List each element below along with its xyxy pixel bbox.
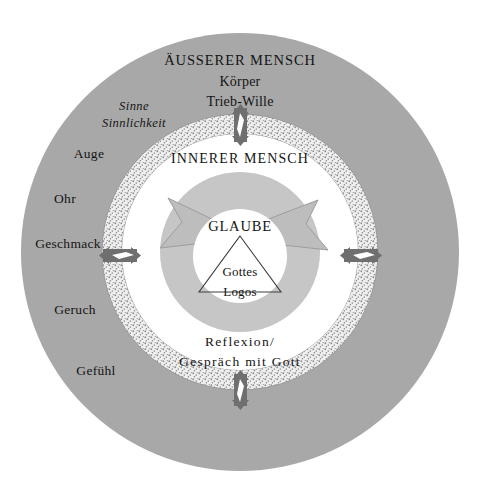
sense-label-auge: Auge <box>74 146 104 161</box>
concentric-circles-diagram: ÄUSSERER MENSCH Körper Trieb-Wille Sinne… <box>0 0 481 503</box>
sense-label-geschmack: Geschmack <box>35 236 101 251</box>
outer-zone-italic-line1: Sinne <box>119 99 149 113</box>
marker-right-bidirectional-arrow <box>340 247 382 264</box>
inner-zone-heading: INNERER MENSCH <box>171 151 309 166</box>
outer-zone-heading: ÄUSSERER MENSCH <box>164 52 316 68</box>
core-triangle-line1: Gottes <box>222 264 257 279</box>
marker-bottom-bidirectional-arrow <box>232 370 249 410</box>
sense-label-gefuehl: Gefühl <box>76 363 115 378</box>
reflexion-line1: Reflexion/ <box>205 334 275 349</box>
marker-left-bidirectional-arrow <box>99 247 141 264</box>
sense-label-ohr: Ohr <box>54 191 76 206</box>
outer-zone-line3: Trieb-Wille <box>206 94 273 109</box>
diagram-canvas: ÄUSSERER MENSCH Körper Trieb-Wille Sinne… <box>0 0 481 503</box>
outer-zone-italic-line2: Sinnlichkeit <box>102 116 166 130</box>
core-triangle-line2: Logos <box>223 284 257 299</box>
reflexion-line2: Gespräch mit Gott <box>179 354 301 369</box>
core-faith-label: GLAUBE <box>208 218 272 234</box>
sense-label-geruch: Geruch <box>54 302 96 317</box>
marker-top-bidirectional-arrow <box>232 104 249 146</box>
outer-zone-line2: Körper <box>220 74 261 89</box>
